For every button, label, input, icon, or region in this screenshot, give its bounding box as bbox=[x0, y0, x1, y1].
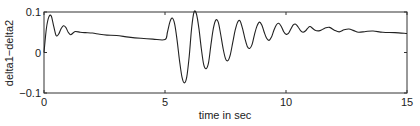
x-axis-label: time in sec bbox=[199, 109, 252, 121]
y-tick-label: 0 bbox=[35, 47, 41, 59]
x-tick-label: 5 bbox=[162, 96, 168, 108]
x-tick-label: 0 bbox=[41, 96, 47, 108]
x-tick-labels: 051015 bbox=[41, 96, 413, 108]
x-tick-label: 15 bbox=[401, 96, 413, 108]
chart: 051015 −0.100.1 time in sec delta1−delta… bbox=[0, 0, 420, 126]
y-axis-label: delta1−delta2 bbox=[3, 20, 15, 86]
series-line-delta1-delta2 bbox=[44, 11, 407, 83]
y-tick-labels: −0.100.1 bbox=[19, 6, 41, 99]
plot-frame bbox=[44, 12, 407, 93]
y-tick-label: −0.1 bbox=[19, 87, 41, 99]
y-tick-label: 0.1 bbox=[26, 6, 41, 18]
x-tick-label: 10 bbox=[280, 96, 292, 108]
axis-ticks bbox=[44, 12, 407, 93]
